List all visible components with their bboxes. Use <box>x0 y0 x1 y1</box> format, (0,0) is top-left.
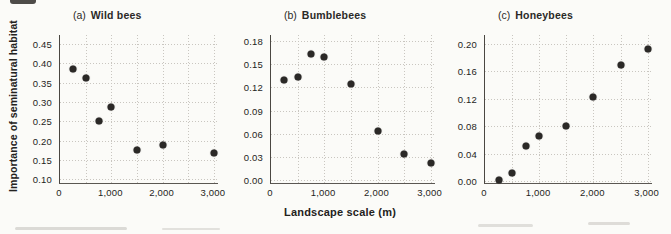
data-point <box>347 80 354 87</box>
gridline-horizontal <box>271 134 435 135</box>
gridline-horizontal <box>485 44 652 45</box>
y-tick-label: 0.04 <box>458 148 477 159</box>
panel-wild-bees: (a)Wild bees 0.100.150.200.250.300.350.4… <box>59 0 218 234</box>
panel-a-plot <box>59 35 218 184</box>
x-tick-label: 0 <box>481 187 486 198</box>
y-tick-label: 0.45 <box>33 38 52 49</box>
panel-a-yticks: 0.100.150.200.250.300.350.400.45 <box>12 35 55 183</box>
gridline-horizontal <box>485 181 652 182</box>
x-tick-label: 1,000 <box>98 187 123 198</box>
panel-bumblebees: (b)Bumblebees 0.000.030.060.090.120.150.… <box>270 0 435 234</box>
y-tick-label: 0.40 <box>33 58 52 69</box>
data-point <box>401 150 408 157</box>
y-tick-label: 0.09 <box>244 105 263 116</box>
y-tick-label: 0.16 <box>458 66 477 77</box>
data-point <box>159 142 166 149</box>
data-point <box>210 149 217 156</box>
gridline-horizontal <box>485 71 652 72</box>
x-tick-label: 2,000 <box>149 187 174 198</box>
gridline-vertical <box>86 35 87 183</box>
y-tick-label: 0.00 <box>458 175 477 186</box>
gridline-vertical <box>539 35 540 183</box>
panel-b-yticks: 0.000.030.060.090.120.150.18 <box>223 35 266 183</box>
gridline-horizontal <box>485 154 652 155</box>
figure-three-panel-scatter: Importance of seminatural habitat (a)Wil… <box>0 0 671 234</box>
panel-b-plot <box>270 35 435 184</box>
panel-honeybees: (c)Honeybees 0.000.040.080.120.160.20 01… <box>484 0 652 234</box>
y-tick-label: 0.08 <box>458 121 477 132</box>
y-tick-label: 0.12 <box>244 82 263 93</box>
y-tick-label: 0.15 <box>33 154 52 165</box>
data-point <box>281 76 288 83</box>
data-point <box>522 143 529 150</box>
y-tick-label: 0.03 <box>244 151 263 162</box>
x-tick-label: 1,000 <box>311 187 336 198</box>
panel-a-title-prefix: (a) <box>73 9 86 21</box>
y-tick-label: 0.20 <box>33 135 52 146</box>
scan-artifact <box>478 224 533 227</box>
data-point <box>617 62 624 69</box>
gridline-vertical <box>593 35 594 183</box>
panel-b-title-text: Bumblebees <box>302 9 366 21</box>
gridline-vertical <box>298 35 299 183</box>
panel-c-title-text: Honeybees <box>515 9 573 21</box>
data-point <box>374 128 381 135</box>
gridline-horizontal <box>60 160 218 161</box>
gridline-horizontal <box>271 64 435 65</box>
scan-artifact <box>588 222 630 225</box>
panel-c-yticks: 0.000.040.080.120.160.20 <box>437 35 480 183</box>
gridline-vertical <box>648 35 649 183</box>
gridline-horizontal <box>271 111 435 112</box>
data-point <box>69 66 76 73</box>
gridline-horizontal <box>485 99 652 100</box>
gridline-horizontal <box>60 121 218 122</box>
panel-a-xticks: 01,0002,0003,000 <box>59 187 218 201</box>
y-tick-label: 0.12 <box>458 93 477 104</box>
x-tick-label: 0 <box>267 187 272 198</box>
data-point <box>95 118 102 125</box>
x-tick-label: 0 <box>56 187 61 198</box>
gridline-vertical <box>404 35 405 183</box>
x-tick-label: 3,000 <box>417 187 442 198</box>
x-tick-label: 3,000 <box>634 187 659 198</box>
gridline-vertical <box>137 35 138 183</box>
y-tick-label: 0.06 <box>244 128 263 139</box>
gridline-horizontal <box>60 63 218 64</box>
x-axis-label: Landscape scale (m) <box>284 206 396 218</box>
data-point <box>509 170 516 177</box>
data-point <box>563 123 570 130</box>
panel-c-plot <box>484 35 652 184</box>
gridline-horizontal <box>60 141 218 142</box>
scan-artifact <box>10 0 36 4</box>
data-point <box>590 94 597 101</box>
gridline-vertical <box>378 35 379 183</box>
panel-c-xticks: 01,0002,0003,000 <box>484 187 652 201</box>
data-point <box>133 147 140 154</box>
gridline-vertical <box>351 35 352 183</box>
gridline-horizontal <box>271 41 435 42</box>
x-tick-label: 3,000 <box>201 187 226 198</box>
panel-c-title-prefix: (c) <box>498 9 510 21</box>
panel-a-title-text: Wild bees <box>91 9 142 21</box>
gridline-vertical <box>188 35 189 183</box>
scan-artifact <box>15 227 127 230</box>
data-point <box>108 103 115 110</box>
panel-c-title: (c)Honeybees <box>498 9 573 21</box>
gridline-horizontal <box>271 180 435 181</box>
data-point <box>82 74 89 81</box>
y-tick-label: 0.00 <box>244 174 263 185</box>
y-tick-label: 0.35 <box>33 77 52 88</box>
data-point <box>495 177 502 184</box>
panel-b-xticks: 01,0002,0003,000 <box>270 187 435 201</box>
gridline-horizontal <box>271 87 435 88</box>
x-tick-label: 2,000 <box>580 187 605 198</box>
y-tick-label: 0.20 <box>458 38 477 49</box>
data-point <box>427 160 434 167</box>
gridline-vertical <box>621 35 622 183</box>
gridline-horizontal <box>60 83 218 84</box>
data-point <box>294 73 301 80</box>
gridline-vertical <box>512 35 513 183</box>
y-tick-label: 0.18 <box>244 36 263 47</box>
gridline-horizontal <box>60 179 218 180</box>
scan-artifact <box>162 228 220 230</box>
